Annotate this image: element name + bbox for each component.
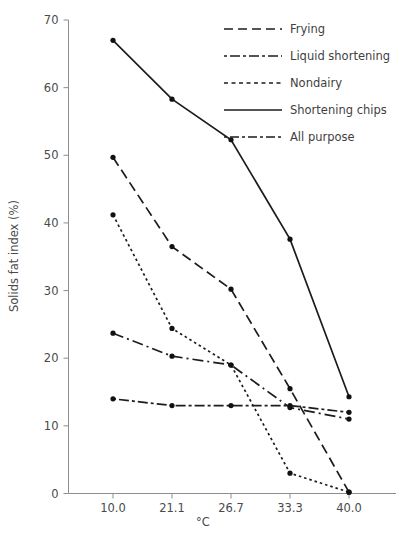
chart-container: 010203040506070 10.021.126.733.340.0 Fry… — [0, 0, 402, 541]
x-tick-label: 33.3 — [277, 501, 303, 515]
data-point-marker — [169, 354, 174, 359]
data-point-marker — [110, 396, 115, 401]
y-axis-title: Solids fat index (%) — [7, 200, 21, 312]
series-line-shortening-chips — [113, 40, 349, 396]
data-point-marker — [287, 403, 292, 408]
legend: FryingLiquid shorteningNondairyShortenin… — [224, 22, 390, 144]
data-point-marker — [169, 403, 174, 408]
y-tick-label: 20 — [44, 351, 59, 365]
x-tick-label: 26.7 — [218, 501, 244, 515]
data-point-marker — [346, 394, 351, 399]
legend-label-shortening-chips: Shortening chips — [290, 103, 387, 117]
y-tick-label: 40 — [44, 216, 59, 230]
legend-label-liquid-shortening: Liquid shortening — [290, 49, 390, 63]
y-tick-label: 30 — [44, 284, 59, 298]
data-point-marker — [228, 403, 233, 408]
x-tick-label: 21.1 — [159, 501, 185, 515]
data-point-marker — [287, 471, 292, 476]
data-point-marker — [346, 416, 351, 421]
data-point-marker — [228, 137, 233, 142]
x-axis-title: °C — [196, 515, 210, 529]
y-axis-ticks: 010203040506070 — [44, 13, 69, 501]
data-point-marker — [287, 386, 292, 391]
legend-label-all-purpose: All purpose — [290, 130, 355, 144]
y-tick-label: 60 — [44, 81, 59, 95]
data-point-marker — [228, 362, 233, 367]
data-point-marker — [169, 244, 174, 249]
x-tick-label: 10.0 — [100, 501, 126, 515]
line-chart: 010203040506070 10.021.126.733.340.0 Fry… — [0, 0, 402, 541]
x-tick-label: 40.0 — [336, 501, 362, 515]
y-tick-label: 70 — [44, 13, 59, 27]
data-point-marker — [169, 326, 174, 331]
legend-label-frying: Frying — [290, 22, 325, 36]
series-line-nondairy — [113, 215, 349, 492]
data-point-marker — [169, 97, 174, 102]
legend-label-nondairy: Nondairy — [290, 76, 342, 90]
y-tick-label: 10 — [44, 419, 59, 433]
y-tick-label: 0 — [51, 487, 58, 501]
data-point-marker — [287, 237, 292, 242]
series-line-frying — [113, 157, 349, 492]
data-point-marker — [110, 212, 115, 217]
data-point-marker — [346, 410, 351, 415]
data-point-marker — [346, 490, 351, 495]
data-point-marker — [110, 155, 115, 160]
data-point-marker — [110, 331, 115, 336]
x-axis-ticks: 10.021.126.733.340.0 — [100, 494, 362, 515]
y-tick-label: 50 — [44, 148, 59, 162]
data-point-marker — [110, 38, 115, 43]
axes — [69, 20, 397, 494]
data-point-marker — [228, 287, 233, 292]
